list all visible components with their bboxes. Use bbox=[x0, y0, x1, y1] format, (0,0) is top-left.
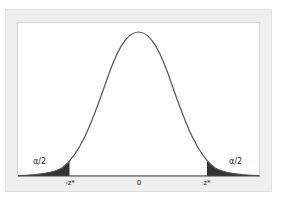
normal-curve bbox=[0, 0, 283, 199]
bell-curve-line bbox=[18, 32, 259, 176]
tick-neg-z-star: -z* bbox=[65, 180, 75, 187]
left-tail-label: α/2 bbox=[33, 158, 46, 166]
tick-z-star: z* bbox=[203, 180, 210, 187]
tick-zero: 0 bbox=[137, 180, 141, 187]
right-tail-label: α/2 bbox=[229, 158, 242, 166]
